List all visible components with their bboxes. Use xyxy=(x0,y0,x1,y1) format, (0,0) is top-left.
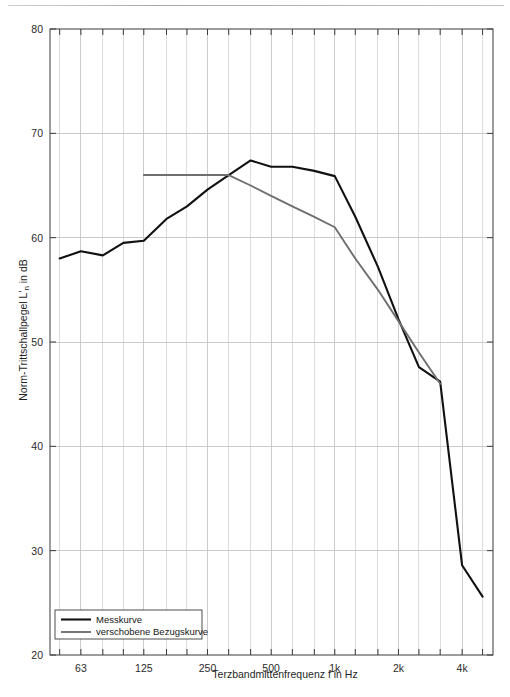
x-tick-label: 4k xyxy=(457,662,469,674)
tick-labels-layer: 20304050607080631252505001k2k4k xyxy=(31,23,468,674)
x-axis-title: Terzbandmittenfrequenz f in Hz xyxy=(212,668,357,680)
y-tick-label: 70 xyxy=(31,127,43,139)
chart-figure: 20304050607080631252505001k2k4k Terzband… xyxy=(0,0,510,697)
y-tick-label: 20 xyxy=(31,649,43,661)
x-tick-label: 63 xyxy=(75,662,87,674)
y-tick-label: 30 xyxy=(31,545,43,557)
y-tick-label: 60 xyxy=(31,232,43,244)
grid-layer xyxy=(50,29,493,655)
noise-level-line-chart: 20304050607080631252505001k2k4k Terzband… xyxy=(0,0,510,697)
y-tick-label: 40 xyxy=(31,440,43,452)
y-axis-title-post: in dB xyxy=(17,259,29,286)
y-tick-label: 80 xyxy=(31,23,43,35)
y-tick-label: 50 xyxy=(31,336,43,348)
legend-label: verschobene Bezugskurve xyxy=(96,626,208,637)
y-axis-title-pre: Norm-Trittschallpegel L' xyxy=(17,291,29,401)
legend-label: Messkurve xyxy=(96,614,142,625)
x-tick-label: 2k xyxy=(393,662,405,674)
svg-text:Norm-Trittschallpegel L'n in d: Norm-Trittschallpegel L'n in dB xyxy=(17,259,31,400)
x-tick-label: 125 xyxy=(135,662,153,674)
chart-legend: Messkurveverschobene Bezugskurve xyxy=(55,610,208,639)
y-axis-title: Norm-Trittschallpegel L'n in dB xyxy=(17,259,31,400)
